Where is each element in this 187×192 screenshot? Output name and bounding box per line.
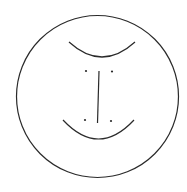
dot-2 [111, 70, 113, 72]
background [0, 0, 187, 192]
dot-4 [110, 120, 112, 122]
dot-1 [85, 70, 87, 72]
face-drawing [0, 0, 187, 192]
dot-3 [84, 119, 86, 121]
